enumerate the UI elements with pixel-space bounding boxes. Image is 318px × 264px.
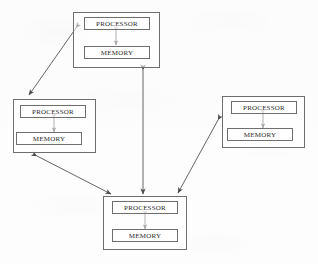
node-bottom-memory-label: MEMORY [129, 232, 161, 240]
node-right-processor-box[interactable]: PROCESSOR [231, 101, 297, 114]
diagram-canvas: left node (diagonal) --> bottom node (ve… [0, 0, 318, 264]
link-left-bottom [37, 156, 111, 194]
node-top-memory-label: MEMORY [101, 49, 133, 57]
node-bottom-memory-box[interactable]: MEMORY [112, 229, 178, 242]
link-top-left [29, 28, 76, 95]
node-right-memory-label: MEMORY [244, 131, 276, 139]
node-top[interactable]: PROCESSOR MEMORY [73, 12, 160, 68]
node-top-processor-box[interactable]: PROCESSOR [84, 17, 150, 30]
node-top-processor-label: PROCESSOR [96, 20, 138, 28]
node-top-memory-box[interactable]: MEMORY [84, 46, 150, 59]
node-right-memory-box[interactable]: MEMORY [227, 128, 293, 141]
node-left-processor-box[interactable]: PROCESSOR [20, 105, 86, 118]
node-left[interactable]: PROCESSOR MEMORY [13, 99, 96, 153]
node-left-memory-label: MEMORY [33, 135, 65, 143]
link-right-bottom [178, 120, 218, 193]
node-left-memory-box[interactable]: MEMORY [16, 132, 82, 145]
node-bottom[interactable]: PROCESSOR MEMORY [103, 196, 187, 250]
node-bottom-processor-label: PROCESSOR [124, 204, 166, 212]
node-bottom-processor-box[interactable]: PROCESSOR [112, 201, 178, 214]
node-left-processor-label: PROCESSOR [32, 108, 74, 116]
node-right[interactable]: PROCESSOR MEMORY [222, 96, 305, 148]
node-right-processor-label: PROCESSOR [243, 104, 285, 112]
